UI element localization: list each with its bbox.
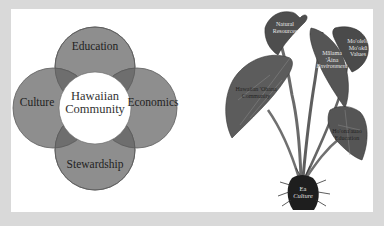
label-culture: Culture: [20, 96, 55, 108]
label-economics: Economics: [127, 96, 178, 108]
taro-label-upper-right-leaf: Mo'olelo Mo'okū Values: [347, 38, 368, 58]
center-line-2: Community: [65, 103, 125, 116]
label-education: Education: [72, 40, 119, 52]
figure-graphics: [0, 0, 384, 226]
taro-label-corm: Ea Culture: [293, 185, 313, 199]
label-hawaiian-community: Hawaiian Community: [65, 90, 125, 116]
taro-label-middle-right: Mālama 'Āina Environment: [317, 50, 348, 70]
taro-label-left-leaf: Hawaiian 'Ohana Community: [235, 86, 276, 99]
stem: [268, 110, 299, 178]
label-stewardship: Stewardship: [67, 158, 124, 170]
taro-label-top-leaf: Natural Resources: [273, 21, 298, 34]
taro-label-lower-right-leaf: Ho'ona'auao Education: [332, 128, 361, 141]
stem: [306, 138, 340, 178]
